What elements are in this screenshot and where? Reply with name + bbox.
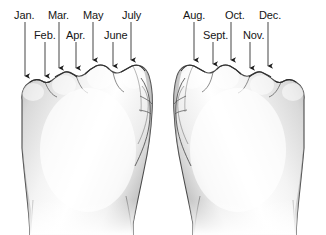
month-label-mar: Mar. — [48, 10, 69, 21]
month-label-aug: Aug. — [183, 10, 205, 21]
knuckle-highlight-may — [87, 67, 113, 89]
month-label-jan: Jan. — [14, 10, 34, 21]
month-label-feb: Feb. — [34, 30, 56, 41]
month-label-apr: Apr. — [66, 30, 85, 41]
knuckle-highlight-aug — [213, 67, 239, 89]
month-label-may: May — [83, 10, 103, 21]
month-label-oct: Oct. — [225, 10, 245, 21]
month-label-june: June — [104, 30, 127, 41]
month-label-dec: Dec. — [259, 10, 281, 21]
month-label-july: July — [122, 10, 141, 21]
month-label-nov: Nov. — [243, 30, 264, 41]
month-label-sept: Sept. — [203, 30, 228, 41]
